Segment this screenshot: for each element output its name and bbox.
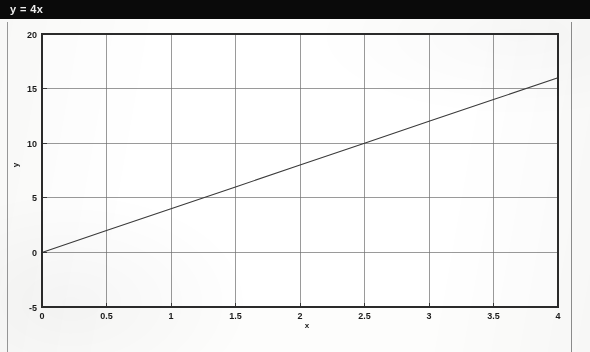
- window-title: y = 4x: [10, 3, 43, 15]
- y-tick-label: -5: [29, 303, 37, 313]
- x-tick-label: 4: [555, 311, 560, 321]
- y-tick-label: 0: [32, 248, 37, 258]
- y-tick-label: 15: [27, 84, 37, 94]
- x-tick-label: 0.5: [100, 311, 113, 321]
- scanned-page: y = 4x 00.511.522.533.54 -505101520 x y: [0, 0, 590, 352]
- plot-canvas: 00.511.522.533.54 -505101520 x y: [0, 19, 590, 352]
- x-tick-label: 0: [39, 311, 44, 321]
- x-tick-label: 1: [168, 311, 173, 321]
- y-tick-label: 10: [27, 139, 37, 149]
- x-tick-label: 2: [297, 311, 302, 321]
- x-tick-label: 2.5: [358, 311, 371, 321]
- x-axis-tick-labels: 00.511.522.533.54: [39, 311, 560, 321]
- window-titlebar: y = 4x: [0, 0, 590, 19]
- y-axis-tick-labels: -505101520: [27, 30, 37, 313]
- x-tick-label: 3.5: [487, 311, 500, 321]
- figure-plot: 00.511.522.533.54 -505101520 x y: [0, 19, 590, 352]
- x-axis-title: x: [305, 321, 310, 330]
- x-tick-label: 3: [426, 311, 431, 321]
- y-tick-label: 5: [32, 193, 37, 203]
- y-tick-label: 20: [27, 30, 37, 40]
- y-axis-title: y: [11, 162, 20, 167]
- x-tick-label: 1.5: [229, 311, 242, 321]
